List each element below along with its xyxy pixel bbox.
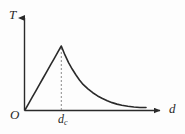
plot-canvas — [0, 0, 185, 134]
critical-distance-subscript: c — [64, 118, 68, 127]
temperature-vs-distance-figure: T d O dc — [0, 0, 185, 134]
y-axis-label: T — [9, 8, 16, 21]
temperature-curve — [25, 46, 146, 110]
origin-label: O — [10, 108, 19, 121]
x-axis-label: d — [169, 102, 176, 115]
critical-distance-label: dc — [58, 113, 68, 125]
